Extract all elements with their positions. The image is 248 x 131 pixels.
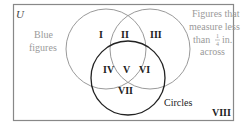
small-label-frac-num: 1: [216, 33, 219, 39]
region-VI: VI: [139, 64, 150, 75]
small-label-line3-pre: than: [193, 34, 210, 45]
venn-diagram: U Blue figures Figures that measure less…: [0, 0, 248, 131]
blue-label-line2: figures: [29, 42, 57, 53]
circles-circle: [91, 41, 165, 115]
small-label-line4: across: [200, 46, 225, 57]
region-III: III: [150, 29, 162, 40]
small-label-line3-post: in.: [222, 34, 232, 45]
circles-label: Circles: [164, 97, 192, 108]
small-label-line2: measure less: [189, 21, 240, 32]
universe-label: U: [16, 8, 25, 20]
region-VIII: VIII: [212, 107, 231, 118]
region-VII: VII: [118, 85, 133, 96]
region-II: II: [121, 29, 129, 40]
region-V: V: [123, 64, 131, 75]
blue-label-line1: Blue: [34, 29, 53, 40]
region-IV: IV: [103, 64, 115, 75]
small-label-line1: Figures that: [192, 8, 240, 19]
region-I: I: [99, 29, 103, 40]
